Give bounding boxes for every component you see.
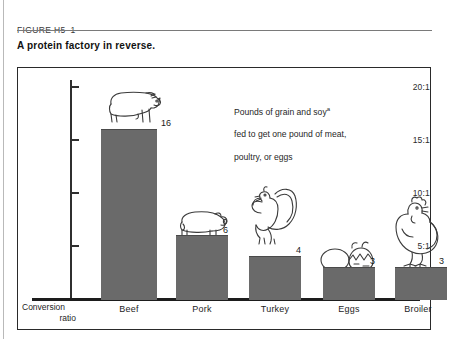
conversion-ratio-label: Conversion ratio bbox=[22, 302, 82, 323]
plot-area: 20:1 15:1 10:1 5:1 0 16 Beef bbox=[18, 68, 430, 329]
bar-value-broiler: 3 bbox=[439, 256, 444, 266]
annotation-line3: poultry, or eggs bbox=[234, 152, 293, 162]
bar-value-pork: 6 bbox=[223, 225, 228, 235]
cow-icon bbox=[102, 87, 164, 126]
bar-beef bbox=[101, 129, 157, 300]
bar-pork bbox=[176, 235, 228, 300]
y-tick-15 bbox=[72, 139, 79, 141]
y-axis-line bbox=[70, 80, 72, 301]
figure-header-rule bbox=[17, 30, 432, 31]
bar-label-turkey: Turkey bbox=[249, 304, 301, 314]
y-tick-10 bbox=[72, 192, 79, 194]
bar-value-eggs: 3 bbox=[370, 256, 375, 266]
conversion-ratio-line2: ratio bbox=[22, 313, 82, 324]
bar-label-pork: Pork bbox=[176, 304, 228, 314]
conversion-ratio-line1: Conversion bbox=[22, 302, 82, 313]
chart-frame: 20:1 15:1 10:1 5:1 0 16 Beef bbox=[17, 67, 431, 330]
annotation-superscript: a bbox=[327, 106, 330, 112]
bar-label-eggs: Eggs bbox=[323, 304, 375, 314]
annotation-line1: Pounds of grain and soy bbox=[234, 106, 327, 116]
bar-label-broiler: Broiler bbox=[390, 304, 446, 314]
bar-label-beef: Beef bbox=[101, 304, 157, 314]
figure-title: A protein factory in reverse. bbox=[17, 40, 155, 51]
y-tick-20 bbox=[72, 86, 79, 88]
bar-turkey bbox=[249, 256, 301, 300]
chicken-icon bbox=[388, 196, 444, 268]
chart-annotation: Pounds of grain and soya fed to get one … bbox=[234, 92, 346, 164]
bar-value-turkey: 4 bbox=[296, 245, 301, 255]
bar-broiler bbox=[395, 267, 447, 300]
page-edge-rule bbox=[3, 0, 4, 339]
annotation-line2: fed to get one pound of meat, bbox=[234, 129, 346, 139]
figure-header: FIGURE H5–1 bbox=[17, 19, 432, 37]
bar-value-beef: 16 bbox=[161, 118, 171, 128]
y-tick-5 bbox=[72, 245, 79, 247]
y-label-15: 15:1 bbox=[384, 135, 430, 145]
turkey-icon bbox=[244, 184, 300, 248]
pig-icon bbox=[174, 208, 230, 237]
y-label-20: 20:1 bbox=[384, 82, 430, 92]
bar-eggs bbox=[323, 267, 375, 300]
